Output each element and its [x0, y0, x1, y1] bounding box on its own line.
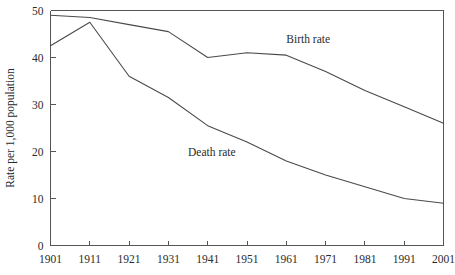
y-tick-label: 50 [32, 5, 44, 17]
y-tick-label: 20 [32, 146, 44, 158]
chart-series-annotations: Birth rateDeath rate [188, 33, 330, 158]
x-tick-label: 1961 [275, 253, 298, 265]
chart-figure: 01020304050 1901191119211931194119511961… [0, 0, 455, 275]
series-line-death-rate [51, 22, 444, 203]
x-tick-label: 1951 [236, 253, 259, 265]
chart-series-lines [51, 15, 444, 203]
x-tick-label: 1941 [196, 253, 219, 265]
series-annotation-birth-rate: Birth rate [286, 33, 330, 45]
chart-tick-marks [51, 11, 444, 246]
series-annotation-death-rate: Death rate [188, 146, 236, 158]
chart-axes [51, 11, 444, 246]
y-axis-tick-labels: 01020304050 [32, 5, 44, 252]
x-tick-label: 1981 [353, 253, 376, 265]
series-line-birth-rate [51, 15, 444, 123]
x-tick-label: 1991 [393, 253, 416, 265]
y-axis-title: Rate per 1,000 population [4, 68, 17, 188]
plot-frame [51, 11, 444, 246]
x-tick-label: 1901 [39, 253, 62, 265]
x-tick-label: 2001 [432, 253, 455, 265]
y-tick-label: 0 [38, 240, 44, 252]
y-tick-label: 10 [32, 193, 44, 205]
x-tick-label: 1971 [314, 253, 337, 265]
y-tick-label: 40 [32, 52, 44, 64]
x-tick-label: 1911 [79, 253, 102, 265]
x-axis-tick-labels: 1901191119211931194119511961197119811991… [39, 253, 455, 265]
line-chart: 01020304050 1901191119211931194119511961… [0, 0, 455, 275]
x-tick-label: 1931 [157, 253, 180, 265]
y-tick-label: 30 [32, 99, 44, 111]
x-tick-label: 1921 [118, 253, 141, 265]
